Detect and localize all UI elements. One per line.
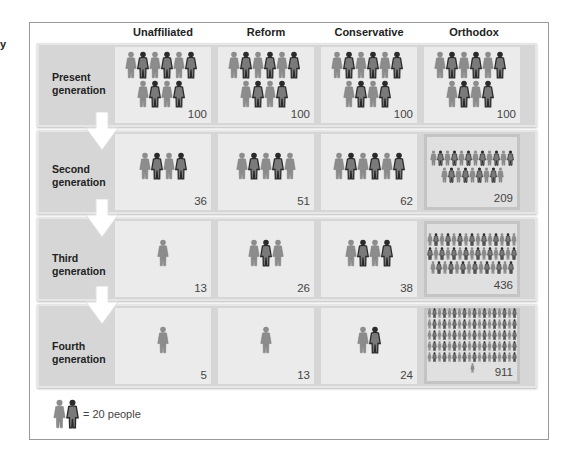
row-label-fourth: Fourthgeneration [52,340,106,366]
column-header-conservative: Conservative [321,26,417,38]
cell-value: 209 [494,192,513,204]
people-icons [115,314,211,366]
column-header-reform: Reform [218,26,314,38]
cell-second-unaffiliated: 36 [115,134,211,210]
cell-value: 100 [188,108,207,120]
row-label-second: Secondgeneration [52,163,106,189]
person-pair-icon [53,399,79,429]
cell-present-orthodox: 100 [424,47,520,123]
cell-fourth-orthodox: 911 [424,308,520,384]
cell-third-reform: 26 [218,221,314,297]
cell-value: 436 [494,279,513,291]
people-icons [115,140,211,192]
cell-third-conservative: 38 [321,221,417,297]
people-icons [218,140,314,192]
cell-value: 100 [291,108,310,120]
cell-present-unaffiliated: 100 [115,47,211,123]
people-icons [321,53,417,105]
cell-fourth-conservative: 24 [321,308,417,384]
cell-second-conservative: 62 [321,134,417,210]
column-header-orthodox: Orthodox [426,26,522,38]
people-icons [424,53,520,105]
people-icons [218,227,314,279]
cell-value: 100 [497,108,516,120]
cell-present-conservative: 100 [321,47,417,123]
people-icons [218,314,314,366]
people-icons [427,317,517,363]
people-icons [115,227,211,279]
cell-value: 13 [194,282,207,294]
column-header-unaffiliated: Unaffiliated [115,26,211,38]
cell-present-reform: 100 [218,47,314,123]
people-icons [115,53,211,105]
cell-third-unaffiliated: 13 [115,221,211,297]
cell-value: 13 [297,369,310,381]
cell-value: 5 [201,369,207,381]
cell-value: 38 [400,282,413,294]
cell-value: 62 [400,195,413,207]
cell-second-orthodox: 209 [424,134,520,210]
row-label-third: Thirdgeneration [52,252,106,278]
people-icons [427,143,517,189]
cut-off-label: y [0,38,6,50]
cell-second-reform: 51 [218,134,314,210]
cell-value: 51 [297,195,310,207]
cell-value: 24 [400,369,413,381]
row-label-present: Presentgeneration [52,71,106,97]
cell-value: 100 [394,108,413,120]
cell-value: 36 [194,195,207,207]
legend-text: = 20 people [83,408,141,420]
cell-fourth-unaffiliated: 5 [115,308,211,384]
people-icons [427,230,517,276]
people-icons [218,53,314,105]
legend: = 20 people [53,399,141,429]
cell-fourth-reform: 13 [218,308,314,384]
people-icons [321,227,417,279]
cell-third-orthodox: 436 [424,221,520,297]
cell-value: 26 [297,282,310,294]
cell-value: 911 [495,366,513,378]
people-icons [321,140,417,192]
people-icons [321,314,417,366]
